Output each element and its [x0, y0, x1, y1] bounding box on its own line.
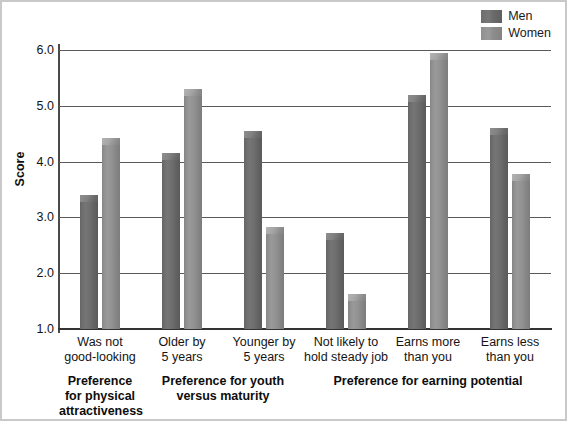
gridline [59, 50, 551, 51]
category-label-line: Earns less [463, 335, 557, 350]
bar-cap [184, 89, 202, 96]
bar-cap [162, 153, 180, 160]
x-axis-group-label-2: Preference for earning potential [305, 374, 551, 389]
legend-label-men: Men [508, 10, 532, 23]
chart-legend: Men Women [481, 9, 551, 41]
category-label-line: than you [463, 350, 557, 365]
bar-cap [326, 233, 344, 240]
category-label-line: hold steady job [299, 350, 393, 365]
legend-label-women: Women [508, 27, 551, 40]
x-axis-category-label: Older by5 years [135, 335, 229, 365]
legend-swatch-women-icon [481, 27, 502, 40]
plot-area [59, 50, 551, 329]
category-label-line: Younger by [217, 335, 311, 350]
bar-women-2 [266, 227, 284, 329]
bar-cap [512, 174, 530, 181]
chart-figure: Men Women Score 1.02.03.04.05.06.0 Was n… [0, 0, 567, 421]
category-label-line: Was not [53, 335, 147, 350]
category-label-line: Not likely to [299, 335, 393, 350]
bar-women-4 [430, 53, 448, 329]
y-axis-tick-label: 6.0 [20, 43, 54, 57]
gridline [59, 273, 551, 274]
bar-cap [408, 95, 426, 102]
y-axis-tick-label: 1.0 [20, 322, 54, 336]
y-axis-tick-label: 5.0 [20, 99, 54, 113]
bar-cap [102, 138, 120, 145]
x-axis-category-label: Not likely tohold steady job [299, 335, 393, 365]
x-axis-group-label-1: Preference for youthversus maturity [141, 374, 305, 404]
group-label-line: Preference [59, 374, 141, 389]
bar-women-3 [348, 294, 366, 329]
x-axis-group-label-0: Preferencefor physicalattractiveness [59, 374, 141, 419]
bar-men-0 [80, 195, 98, 329]
group-label-line: Preference for youth [141, 374, 305, 389]
gridline [59, 106, 551, 107]
group-label-line: for physical [59, 389, 141, 404]
bar-cap [490, 128, 508, 135]
gridline [59, 162, 551, 163]
y-axis-tick-label: 2.0 [20, 266, 54, 280]
group-label-line: versus maturity [141, 389, 305, 404]
bar-women-0 [102, 138, 120, 329]
bar-women-5 [512, 174, 530, 329]
category-label-line: Earns more [381, 335, 475, 350]
bar-women-1 [184, 89, 202, 329]
legend-swatch-men-icon [481, 10, 502, 23]
y-axis-tick-label: 4.0 [20, 155, 54, 169]
x-axis-category-labels: Was notgood-lookingOlder by5 yearsYounge… [59, 335, 551, 375]
x-axis-category-label: Younger by5 years [217, 335, 311, 365]
y-axis-tick-label: 3.0 [20, 210, 54, 224]
gridline [59, 217, 551, 218]
bar-cap [430, 53, 448, 60]
category-label-line: good-looking [53, 350, 147, 365]
bar-men-2 [244, 131, 262, 329]
bar-men-5 [490, 128, 508, 329]
category-label-line: 5 years [135, 350, 229, 365]
x-axis-category-label: Earns lessthan you [463, 335, 557, 365]
legend-item-women: Women [481, 26, 551, 41]
legend-item-men: Men [481, 9, 551, 24]
bar-men-3 [326, 233, 344, 329]
y-axis-tick-labels: 1.02.03.04.05.06.0 [16, 50, 54, 329]
group-label-line: attractiveness [59, 404, 141, 419]
bar-cap [244, 131, 262, 138]
bar-men-1 [162, 153, 180, 329]
bar-cap [266, 227, 284, 234]
category-label-line: Older by [135, 335, 229, 350]
group-label-line: Preference for earning potential [305, 374, 551, 389]
x-axis-group-labels: Preferencefor physicalattractivenessPref… [59, 374, 551, 421]
x-axis-category-label: Earns morethan you [381, 335, 475, 365]
category-label-line: than you [381, 350, 475, 365]
bar-men-4 [408, 95, 426, 329]
bar-cap [348, 294, 366, 301]
x-axis-category-label: Was notgood-looking [53, 335, 147, 365]
category-label-line: 5 years [217, 350, 311, 365]
bar-cap [80, 195, 98, 202]
